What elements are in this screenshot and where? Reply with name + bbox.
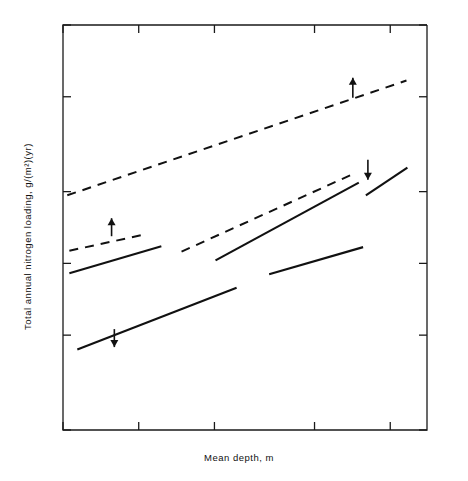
oligotrophic-vollenweider-line: [77, 288, 236, 350]
nitrogen-loading-scatter-figure: Mean depth, m Total annual nitrogen load…: [0, 0, 468, 481]
oligotrophic-florida-arrow-head: [364, 173, 372, 180]
annotation-arrows: [108, 78, 372, 347]
eutrophic-florida-line: [67, 81, 406, 196]
oligotrophic-florida-line: [182, 173, 356, 252]
trend-lines: [67, 81, 407, 350]
y-axis-title: Total annual nitrogen loading, g/(m²)(yr…: [22, 143, 33, 330]
eutrophic-vollenweider-line: [69, 246, 161, 273]
eutrophic-vollenweider-line-dashed: [69, 235, 144, 251]
eutrophic-vollenweider-arrow-head: [108, 218, 116, 225]
oligotrophic-florida-line-solid-right: [366, 168, 408, 196]
oligotrophic-florida-lower-solid: [269, 247, 363, 274]
x-axis-title: Mean depth, m: [204, 452, 274, 463]
plot-canvas: [0, 0, 468, 481]
plot-axes: [63, 25, 427, 430]
axis-frame: [63, 25, 427, 430]
oligotrophic-florida-line-solid: [216, 183, 359, 261]
eutrophic-florida-arrow-head: [349, 78, 357, 85]
oligotrophic-vollenweider-arrow-head: [110, 340, 118, 347]
